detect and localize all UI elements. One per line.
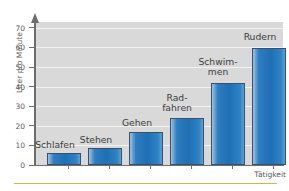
bar-schwimmen (211, 83, 245, 165)
y-tick (29, 106, 34, 107)
y-tick (29, 67, 34, 68)
x-tick (232, 165, 233, 169)
bar-stehen (88, 148, 122, 165)
x-axis-title: Tätigkeit (254, 170, 286, 179)
bar-schlafen (47, 153, 81, 165)
bar-radfahren (170, 118, 204, 165)
x-tick (68, 165, 69, 169)
bar-label-gehen: Gehen (113, 118, 161, 128)
y-tick (29, 27, 34, 28)
bar-gehen (129, 132, 163, 165)
bar-chart-figure: Liter pro Minute 0 10 20 30 40 50 60 70 (0, 0, 289, 191)
y-tick-label: 40 (3, 83, 25, 92)
y-tick-label: 30 (3, 102, 25, 111)
y-axis-arrow-icon (31, 13, 39, 23)
bar-rudern (252, 48, 286, 166)
x-tick (191, 165, 192, 169)
y-tick-label: 60 (3, 43, 25, 52)
x-tick (150, 165, 151, 169)
bar-label-schwimmen: Schwim- men (189, 57, 247, 76)
gridline (35, 47, 283, 48)
y-tick (29, 125, 34, 126)
bar-label-radfahren: Rad- fahren (152, 93, 202, 112)
y-tick-label: 70 (3, 24, 25, 33)
y-tick-label: 10 (3, 141, 25, 150)
y-tick-label: 20 (3, 122, 25, 131)
x-tick (273, 165, 274, 169)
bar-label-rudern: Rudern (234, 32, 286, 42)
y-tick-label: 0 (3, 161, 25, 170)
x-tick (109, 165, 110, 169)
y-tick (29, 165, 34, 166)
gridline (35, 87, 283, 88)
y-tick (29, 86, 34, 87)
bar-label-stehen: Stehen (72, 135, 120, 145)
y-tick-label: 50 (3, 63, 25, 72)
bottom-accent-rule (14, 183, 277, 184)
x-axis-line (34, 165, 284, 166)
y-tick (29, 47, 34, 48)
gridline (35, 28, 283, 29)
